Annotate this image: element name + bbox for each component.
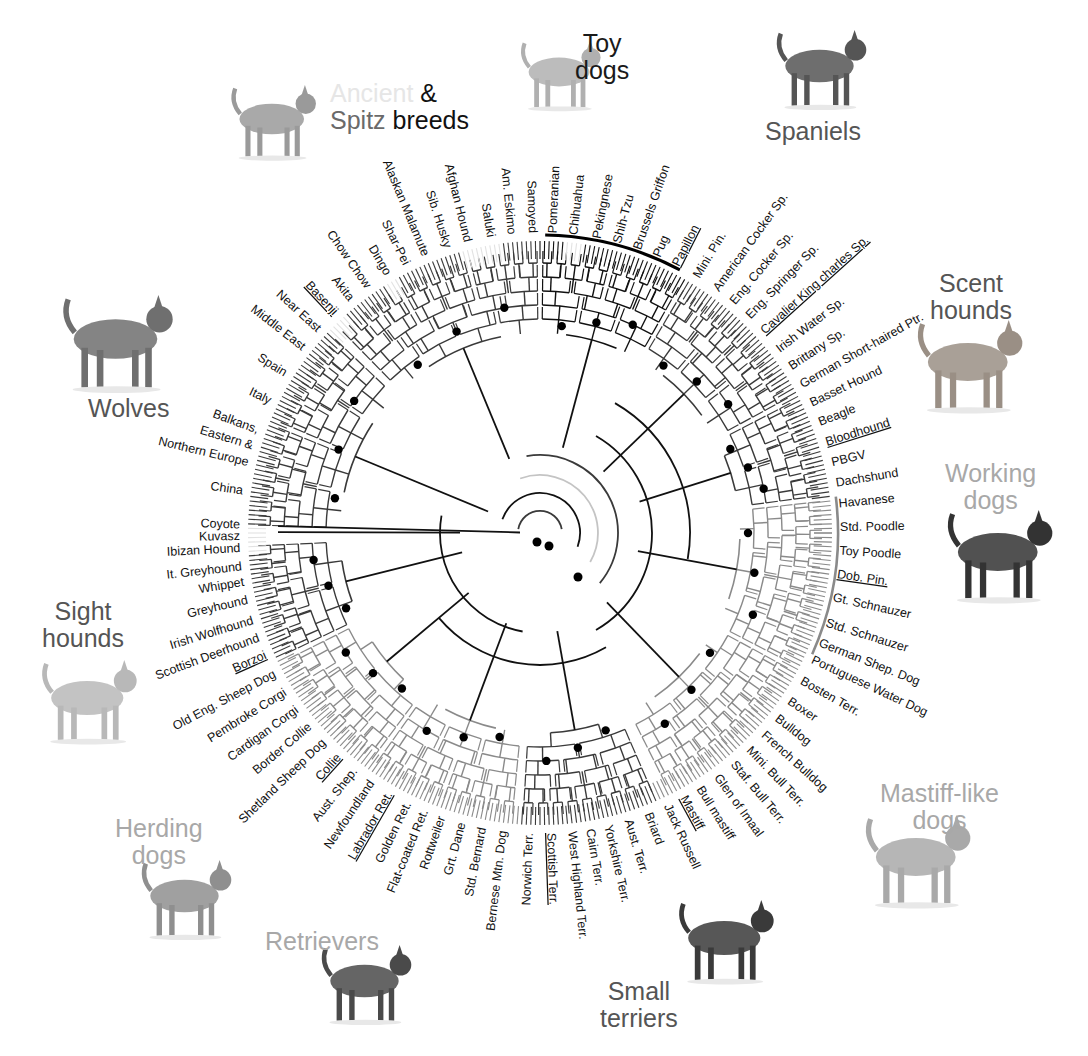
bootstrap-node-dot bbox=[369, 669, 377, 677]
bootstrap-node-dot bbox=[726, 445, 734, 453]
leaf-tick bbox=[261, 447, 278, 452]
breed-label: Dob. Pin. bbox=[836, 567, 889, 588]
leaf-tick bbox=[450, 794, 456, 811]
breed-label: Saluki bbox=[479, 202, 498, 238]
leaf-tick bbox=[583, 245, 586, 263]
leaf-tick bbox=[467, 798, 471, 815]
leaf-tick bbox=[810, 580, 828, 583]
leaf-tick bbox=[327, 333, 340, 345]
bloodhound-illustration bbox=[921, 320, 1023, 413]
phylogenetic-tree: CoyoteChinaNorthern EuropeEastern &Balka… bbox=[0, 0, 1088, 1056]
leaf-tick bbox=[566, 806, 568, 824]
clade-stem bbox=[470, 623, 506, 720]
backbone-arc bbox=[502, 493, 580, 547]
breed-label: Cairn Terr. bbox=[583, 828, 606, 887]
leaf-tick bbox=[676, 771, 685, 787]
collie-illustration bbox=[144, 860, 231, 940]
bootstrap-node-dot bbox=[342, 648, 350, 656]
leaf-tick bbox=[391, 769, 400, 784]
leaf-tick bbox=[286, 669, 302, 678]
leaf-tick bbox=[774, 676, 789, 685]
leaf-tick bbox=[248, 519, 266, 520]
leaf-tick bbox=[248, 542, 266, 543]
leaf-tick bbox=[248, 546, 266, 547]
leaf-tick bbox=[327, 721, 340, 733]
bootstrap-node-dot bbox=[724, 400, 732, 408]
leaf-tick bbox=[805, 460, 822, 464]
leaf-tick bbox=[807, 469, 825, 473]
leaf-tick bbox=[746, 714, 760, 726]
leaf-tick bbox=[354, 308, 365, 322]
group-title-part: Ancient bbox=[330, 79, 413, 107]
bootstrap-node-dot bbox=[744, 529, 752, 537]
leaf-tick bbox=[784, 657, 800, 665]
clade-stem bbox=[463, 348, 509, 459]
leaf-tick bbox=[476, 800, 480, 818]
breed-label: Pekingnese bbox=[590, 173, 616, 240]
leaf-tick bbox=[252, 576, 270, 579]
leaf-tick bbox=[472, 249, 476, 267]
leaf-tick bbox=[810, 483, 828, 486]
leaf-tick bbox=[324, 336, 337, 348]
labrador-illustration bbox=[324, 945, 411, 1025]
leaf-tick bbox=[557, 242, 558, 260]
group-title-retrievers: Retrievers bbox=[265, 928, 379, 955]
leaf-tick bbox=[306, 358, 320, 369]
leaf-tick bbox=[694, 760, 704, 775]
leaf-tick bbox=[813, 515, 831, 516]
bootstrap-node-dot bbox=[495, 733, 503, 741]
leaf-tick bbox=[494, 245, 497, 263]
leaf-tick bbox=[517, 242, 518, 260]
leaf-tick bbox=[812, 563, 830, 565]
leaf-tick bbox=[813, 550, 831, 551]
leaf-tick bbox=[250, 496, 268, 498]
breed-label: Shih-Tzu bbox=[610, 193, 636, 245]
bootstrap-node-dot bbox=[601, 726, 609, 734]
leaf-tick bbox=[687, 764, 697, 779]
leaf-tick bbox=[380, 289, 390, 304]
leaf-tick bbox=[261, 614, 278, 619]
leaf-tick bbox=[321, 340, 335, 352]
leaf-tick bbox=[454, 795, 459, 812]
bootstrap-node-dot bbox=[459, 733, 467, 741]
leaf-tick bbox=[587, 245, 590, 263]
breed-label: Briard bbox=[642, 810, 667, 846]
leaf-tick bbox=[740, 721, 753, 733]
leaf-tick bbox=[248, 524, 266, 525]
leaf-tick bbox=[481, 247, 485, 265]
leaf-tick bbox=[391, 282, 400, 297]
leaf-tick bbox=[734, 327, 747, 340]
leaf-tick bbox=[372, 757, 382, 772]
leaf-tick bbox=[249, 554, 267, 555]
leaf-tick bbox=[249, 515, 267, 516]
leaf-tick bbox=[767, 687, 782, 697]
bootstrap-node-dot bbox=[398, 684, 406, 692]
group-title-herding: Herdingdogs bbox=[115, 815, 203, 869]
bootstrap-node-dot bbox=[500, 304, 508, 312]
breed-label: PBGV bbox=[830, 447, 868, 469]
leaf-tick bbox=[330, 724, 343, 737]
springer-illustration bbox=[779, 30, 866, 110]
leaf-tick bbox=[811, 492, 829, 495]
leaf-tick bbox=[808, 589, 826, 593]
leaf-tick bbox=[251, 572, 269, 575]
leaf-tick bbox=[324, 717, 337, 729]
bootstrap-node-dot bbox=[661, 720, 669, 728]
clade-stem bbox=[557, 631, 574, 730]
leaf-tick bbox=[318, 343, 332, 355]
leaf-tick bbox=[751, 708, 765, 719]
leaf-tick bbox=[771, 680, 786, 690]
clade-stem bbox=[355, 456, 488, 511]
leaf-tick bbox=[350, 311, 362, 325]
bootstrap-node-dot bbox=[744, 463, 752, 471]
leaf-tick bbox=[399, 773, 408, 789]
leaf-tick bbox=[721, 314, 733, 328]
leaf-tick bbox=[748, 711, 762, 723]
leaf-tick bbox=[621, 795, 626, 812]
scottie-illustration bbox=[682, 900, 774, 985]
breed-label: China bbox=[210, 479, 244, 497]
leaf-tick bbox=[557, 806, 558, 824]
leaf-tick bbox=[600, 248, 604, 266]
breed-label: Whippet bbox=[198, 575, 246, 596]
leaf-tick bbox=[802, 447, 819, 452]
